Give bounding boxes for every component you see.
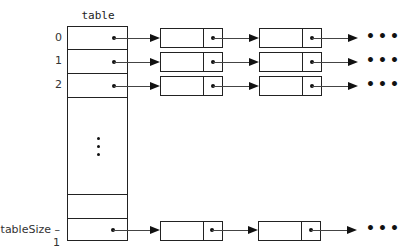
arrowhead-icon bbox=[249, 58, 259, 66]
arrow-line bbox=[312, 62, 350, 63]
continuation-ellipsis: ••• bbox=[366, 52, 398, 68]
arrow-line bbox=[213, 86, 251, 87]
arrowhead-icon bbox=[347, 226, 357, 234]
arrowhead-icon bbox=[150, 82, 160, 90]
arrow-line bbox=[213, 62, 251, 63]
arrowhead-icon bbox=[248, 226, 258, 234]
arrowhead-icon bbox=[150, 34, 160, 42]
vertical-ellipsis-icon bbox=[95, 137, 101, 161]
hash-table-diagram: table 0 1 2 tableSize – 1 ••• ••• bbox=[0, 0, 398, 250]
arrow-line bbox=[311, 230, 349, 231]
arrow-line bbox=[312, 38, 350, 39]
arrow-line bbox=[114, 62, 152, 63]
arrowhead-icon bbox=[150, 58, 160, 66]
table-label: table bbox=[67, 9, 129, 22]
arrowhead-icon bbox=[348, 82, 358, 90]
arrow-line bbox=[113, 230, 151, 231]
index-label-last: tableSize – 1 bbox=[0, 223, 60, 249]
arrowhead-icon bbox=[348, 34, 358, 42]
continuation-ellipsis: ••• bbox=[366, 220, 398, 236]
arrowhead-icon bbox=[348, 58, 358, 66]
arrow-line bbox=[114, 86, 152, 87]
arrow-line bbox=[114, 38, 152, 39]
index-label-1: 1 bbox=[0, 54, 62, 67]
table-array bbox=[67, 26, 128, 241]
continuation-ellipsis: ••• bbox=[366, 28, 398, 44]
arrowhead-icon bbox=[249, 34, 259, 42]
index-label-0: 0 bbox=[0, 31, 62, 44]
arrow-line bbox=[213, 38, 251, 39]
row-divider bbox=[68, 97, 127, 98]
arrow-line bbox=[212, 230, 250, 231]
arrowhead-icon bbox=[150, 226, 160, 234]
index-label-2: 2 bbox=[0, 78, 62, 91]
row-divider bbox=[68, 73, 127, 74]
arrow-line bbox=[312, 86, 350, 87]
row-divider bbox=[68, 194, 127, 195]
row-divider bbox=[68, 49, 127, 50]
continuation-ellipsis: ••• bbox=[366, 76, 398, 92]
row-divider bbox=[68, 218, 127, 219]
arrowhead-icon bbox=[249, 82, 259, 90]
